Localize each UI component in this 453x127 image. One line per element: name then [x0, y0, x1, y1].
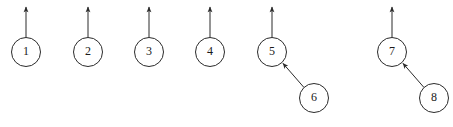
- node-5[interactable]: 5: [258, 38, 287, 67]
- diagram-canvas: 1 2 3 4 5 6 7: [0, 0, 453, 127]
- node-3-label: 3: [146, 44, 152, 58]
- node-group: 1 2 3 4 5 6 7: [12, 38, 449, 113]
- node-5-label: 5: [269, 44, 275, 58]
- node-1[interactable]: 1: [12, 38, 41, 67]
- node-6[interactable]: 6: [300, 84, 329, 113]
- node-4-label: 4: [207, 44, 213, 58]
- node-8[interactable]: 8: [420, 84, 449, 113]
- inter-node-edge-group: [283, 63, 424, 87]
- node-3[interactable]: 3: [135, 38, 164, 67]
- node-8-label: 8: [431, 90, 437, 104]
- outgoing-arrow-group: [26, 7, 392, 38]
- node-2[interactable]: 2: [74, 38, 103, 67]
- node-7-label: 7: [389, 44, 395, 58]
- node-1-label: 1: [23, 44, 29, 58]
- node-2-label: 2: [85, 44, 91, 58]
- node-6-label: 6: [311, 90, 317, 104]
- diagram-svg: 1 2 3 4 5 6 7: [0, 0, 453, 127]
- edge-node-8-to-node-7: [403, 63, 424, 87]
- edge-node-6-to-node-5: [283, 63, 304, 87]
- node-4[interactable]: 4: [196, 38, 225, 67]
- node-7[interactable]: 7: [378, 38, 407, 67]
